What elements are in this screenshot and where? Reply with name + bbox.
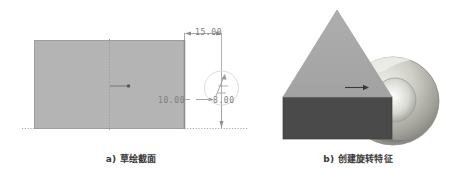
base-block (283, 97, 392, 139)
figure-root: 15.00 10.00 8.00 a) 草绘截面 (0, 0, 454, 188)
revolved-feature-panel: b) 创建旋转特征 (262, 0, 454, 188)
caption-sketch-section: a) 草绘截面 (0, 152, 262, 165)
dimension-height-value: 10.00 (158, 96, 185, 105)
handle-arrow-upper-icon (222, 74, 227, 80)
dimension-width-value: 15.00 (195, 28, 222, 37)
caption-revolved-feature: b) 创建旋转特征 (262, 152, 454, 165)
width-arrow-left-icon (185, 32, 191, 36)
dimension-offset-value: 8.00 (213, 96, 235, 105)
triangle-face (283, 10, 392, 97)
sketch-section-panel: 15.00 10.00 8.00 a) 草绘截面 (0, 0, 262, 188)
center-point-marker (127, 84, 131, 88)
axis-arrow-down-icon (220, 121, 224, 128)
